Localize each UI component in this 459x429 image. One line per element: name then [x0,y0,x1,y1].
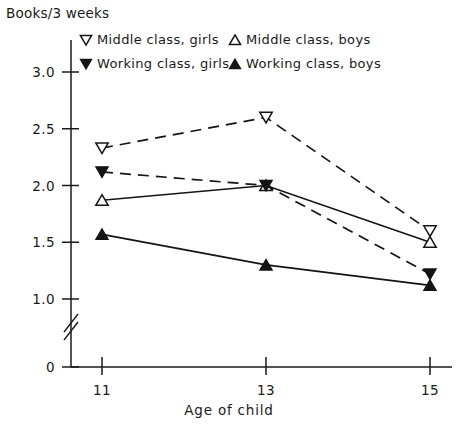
legend-marker-triangle-up-filled [229,59,240,69]
legend-label: Working class, boys [246,56,381,71]
x-tick-label: 11 [93,382,111,398]
legend-marker-triangle-up-open [229,35,240,45]
series-line-0 [102,117,430,230]
x-tick-label: 15 [421,382,439,398]
data-point-marker [96,229,108,240]
x-tick-label: 13 [257,382,275,398]
y-axis-ticks: 3.02.52.01.51.00 [32,64,79,375]
chart-container: Books/3 weeks 3.02.52.01.51.00 111315 Mi… [0,0,459,429]
legend-label: Middle class, boys [246,32,371,47]
series-layer [96,112,436,290]
legend-label: Working class, girls [97,56,229,71]
y-tick-label: 2.5 [32,121,55,137]
y-tick-label: 1.5 [32,234,55,250]
y-tick-label: 1.0 [32,291,55,307]
y-tick-label: 0 [46,359,55,375]
y-tick-label: 2.0 [32,178,55,194]
data-point-marker [424,269,436,280]
x-axis-title: Age of child [184,402,273,418]
chart-legend: Middle class, girlsMiddle class, boysWor… [80,32,381,71]
y-tick-label: 3.0 [32,64,55,80]
data-point-marker [424,237,436,248]
data-point-marker [96,143,108,154]
x-axis-ticks: 111315 [93,357,439,398]
y-axis-title: Books/3 weeks [6,5,109,21]
legend-label: Middle class, girls [97,32,219,47]
line-chart: Books/3 weeks 3.02.52.01.51.00 111315 Mi… [0,0,459,429]
series-line-1 [102,186,430,243]
legend-marker-triangle-down-filled [80,59,91,69]
legend-marker-triangle-down-open [80,35,91,45]
data-point-marker [424,226,436,237]
